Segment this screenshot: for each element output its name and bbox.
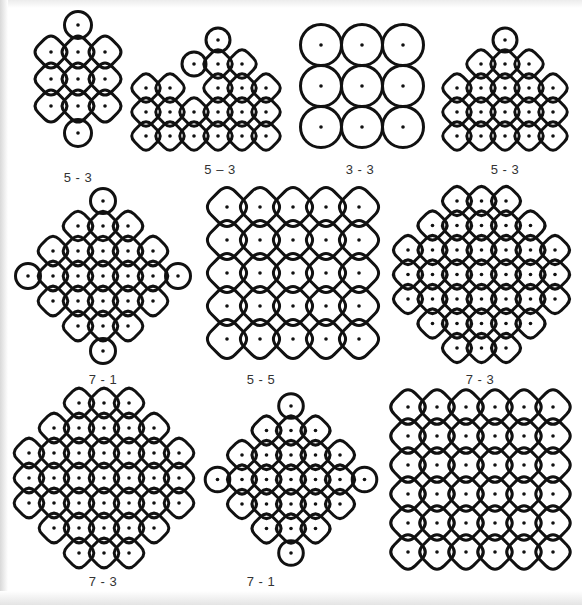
- kolam-dot: [401, 125, 405, 129]
- kolam-dot: [455, 110, 459, 114]
- kolam-dot: [464, 492, 468, 496]
- kolam-dot: [52, 476, 56, 480]
- kolam-dot: [551, 492, 555, 496]
- kolam-dot: [177, 501, 181, 505]
- kolam-dot: [49, 104, 53, 108]
- kolam-dot: [455, 224, 459, 228]
- kolam-dot: [127, 551, 131, 555]
- kolam-dot: [529, 297, 533, 301]
- kolam-dot: [324, 271, 328, 275]
- kolam-dot: [406, 521, 410, 525]
- kolam-dot: [152, 426, 156, 430]
- kolam-dot: [479, 62, 483, 66]
- kolam-dot: [464, 463, 468, 467]
- kolam-dot: [102, 476, 106, 480]
- kolam-dot: [77, 501, 81, 505]
- kolam-dot: [406, 492, 410, 496]
- kolam-pattern-9: [205, 394, 377, 566]
- kolam-dot: [265, 429, 269, 433]
- kolam-dot: [455, 199, 459, 203]
- kolam-dot: [480, 248, 484, 252]
- kolam-dot: [551, 521, 555, 525]
- kolam-dot: [319, 125, 323, 129]
- kolam-dot: [76, 77, 80, 81]
- kolam-dot: [177, 476, 181, 480]
- kolam-dot: [435, 405, 439, 409]
- kolam-label-9: 7 - 1: [247, 574, 276, 589]
- kolam-dot: [289, 429, 293, 433]
- kolam-pattern-8: [14, 388, 194, 568]
- kolam-dot: [503, 86, 507, 90]
- kolam-dot: [464, 434, 468, 438]
- kolam-dot: [324, 337, 328, 341]
- kolam-dot: [319, 43, 323, 47]
- kolam-dot: [314, 527, 318, 531]
- kolam-dot: [406, 550, 410, 554]
- kolam-pattern-7: [393, 186, 569, 362]
- kolam-dot: [464, 521, 468, 525]
- kolam-dot: [77, 526, 81, 530]
- kolam-dot: [168, 134, 172, 138]
- kolam-dot: [102, 526, 106, 530]
- kolam-dot: [406, 434, 410, 438]
- kolam-dot: [479, 86, 483, 90]
- kolam-dot: [258, 238, 262, 242]
- kolam-dot: [258, 304, 262, 308]
- kolam-dot: [216, 38, 220, 42]
- kolam-dot: [431, 248, 435, 252]
- kolam-dot: [151, 299, 155, 303]
- kolam-label-7: 7 - 3: [466, 372, 495, 387]
- kolam-pattern-2: [132, 28, 281, 150]
- kolam-dot: [504, 199, 508, 203]
- kolam-dot: [553, 248, 557, 252]
- kolam-dot: [52, 501, 56, 505]
- kolam-dot: [435, 550, 439, 554]
- kolam-dot: [77, 451, 81, 455]
- kolam-label-6: 5 - 5: [247, 372, 276, 387]
- kolam-dot: [357, 271, 361, 275]
- kolam-dot: [455, 297, 459, 301]
- kolam-dot: [504, 224, 508, 228]
- kolam-dot: [240, 502, 244, 506]
- kolam-dot: [27, 501, 31, 505]
- kolam-dot: [127, 526, 131, 530]
- kolam-dot: [77, 426, 81, 430]
- kolam-dot: [258, 337, 262, 341]
- kolam-dot: [289, 404, 293, 408]
- kolam-dot: [503, 134, 507, 138]
- kolam-dot: [480, 273, 484, 277]
- kolam-dot: [522, 521, 526, 525]
- kolam-dot: [480, 322, 484, 326]
- kolam-label-4: 5 - 3: [491, 162, 520, 177]
- kolam-dot: [51, 274, 55, 278]
- kolam-dot: [527, 62, 531, 66]
- kolam-dot: [401, 84, 405, 88]
- kolam-dot: [493, 405, 497, 409]
- kolam-dot: [406, 463, 410, 467]
- kolam-dot: [77, 551, 81, 555]
- kolam-dot: [102, 501, 106, 505]
- kolam-dot: [289, 527, 293, 531]
- kolam-dot: [192, 62, 196, 66]
- kolam-dot: [240, 478, 244, 482]
- kolam-dot: [176, 274, 180, 278]
- kolam-dot: [177, 451, 181, 455]
- kolam-label-8: 7 - 3: [89, 574, 118, 589]
- kolam-label-3: 3 - 3: [346, 162, 375, 177]
- kolam-dot: [225, 205, 229, 209]
- kolam-dot: [76, 274, 80, 278]
- kolam-dot: [216, 86, 220, 90]
- kolam-dot: [455, 86, 459, 90]
- kolam-dot: [455, 322, 459, 326]
- kolam-dot: [401, 43, 405, 47]
- kolam-dot: [360, 43, 364, 47]
- kolam-dot: [431, 297, 435, 301]
- kolam-dot: [529, 248, 533, 252]
- kolam-dot: [455, 346, 459, 350]
- kolam-dot: [480, 224, 484, 228]
- kolam-dot: [101, 199, 105, 203]
- kolam-dot: [101, 349, 105, 353]
- kolam-dot: [527, 86, 531, 90]
- kolam-dot: [152, 526, 156, 530]
- kolam-dot: [493, 463, 497, 467]
